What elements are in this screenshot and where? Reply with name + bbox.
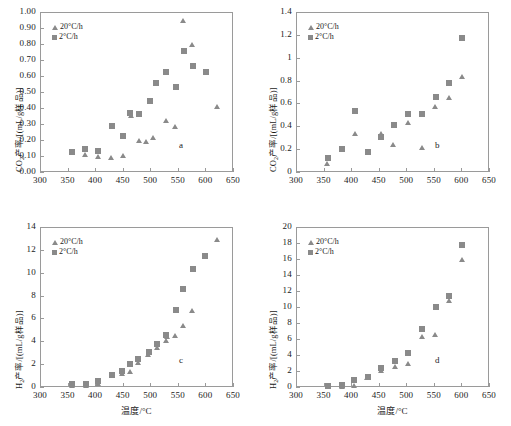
y-tick-mark <box>296 243 300 244</box>
x-tick-label: 400 <box>337 175 365 185</box>
data-point-square <box>433 304 439 310</box>
y-tick-mark <box>40 92 44 93</box>
x-tick-mark <box>434 383 435 387</box>
x-tick-label: 450 <box>365 175 393 185</box>
x-tick-label: 550 <box>164 390 192 400</box>
y-tick-label: 1 <box>258 52 292 62</box>
y-tick-label: 0.80 <box>2 38 36 48</box>
x-tick-mark <box>379 383 380 387</box>
data-point-triangle <box>378 368 384 373</box>
y-tick-label: 0.8 <box>258 75 292 85</box>
x-tick-label: 600 <box>191 175 219 185</box>
data-point-triangle <box>432 332 438 337</box>
triangle-marker-icon <box>52 25 58 30</box>
y-tick-mark <box>296 275 300 276</box>
x-tick-label: 450 <box>109 390 137 400</box>
y-tick-mark <box>296 387 300 388</box>
y-tick-mark <box>40 44 44 45</box>
data-point-square <box>120 133 126 139</box>
legend-item: 2°C/h <box>52 247 83 257</box>
x-tick-label: 600 <box>447 175 475 185</box>
panel-letter-c: c <box>179 355 183 365</box>
triangle-marker-icon <box>52 240 58 245</box>
y-tick-label: 18 <box>258 237 292 247</box>
x-tick-mark <box>40 168 41 172</box>
data-point-triangle <box>392 364 398 369</box>
data-point-triangle <box>95 381 101 386</box>
data-point-triangle <box>163 118 169 123</box>
y-tick-mark <box>40 140 44 141</box>
data-point-triangle <box>405 361 411 366</box>
x-tick-mark <box>489 168 490 172</box>
data-point-triangle <box>189 308 195 313</box>
y-tick-mark <box>40 28 44 29</box>
data-point-triangle <box>172 124 178 129</box>
square-marker-icon <box>308 35 313 40</box>
legend-item: 20°C/h <box>308 22 339 32</box>
data-point-triangle <box>405 120 411 125</box>
x-tick-label: 600 <box>191 390 219 400</box>
data-point-triangle <box>83 383 89 388</box>
data-point-triangle <box>128 113 134 118</box>
x-tick-mark <box>150 383 151 387</box>
legend-item: 2°C/h <box>308 32 339 42</box>
data-point-triangle <box>69 383 75 388</box>
x-tick-mark <box>461 168 462 172</box>
x-tick-mark <box>296 383 297 387</box>
data-point-square <box>69 149 75 155</box>
figure-grid: 0.000.100.200.300.400.500.600.700.800.90… <box>0 0 511 426</box>
legend-item: 20°C/h <box>52 22 83 32</box>
data-point-square <box>405 350 411 356</box>
data-point-square <box>391 122 397 128</box>
x-tick-label: 350 <box>54 390 82 400</box>
legend-label: 2°C/h <box>315 247 334 257</box>
data-point-triangle <box>145 352 151 357</box>
y-tick-mark <box>40 227 44 228</box>
data-point-triangle <box>214 104 220 109</box>
x-tick-mark <box>233 383 234 387</box>
data-point-square <box>173 307 179 313</box>
plot-area-b: 00.20.40.60.811.21.430035040045050055060… <box>256 0 511 213</box>
legend: 20°C/h2°C/h <box>308 22 339 42</box>
x-tick-label: 300 <box>26 390 54 400</box>
y-tick-mark <box>40 318 44 319</box>
panel-letter-d: d <box>435 355 440 365</box>
data-point-triangle <box>324 161 330 166</box>
data-point-triangle <box>325 384 331 389</box>
x-tick-mark <box>95 168 96 172</box>
data-point-square <box>202 253 208 259</box>
data-point-square <box>352 108 358 114</box>
x-tick-mark <box>379 168 380 172</box>
data-point-triangle <box>143 139 149 144</box>
x-tick-label: 400 <box>81 175 109 185</box>
plot-area-a: 0.000.100.200.300.400.500.600.700.800.90… <box>0 0 255 213</box>
x-tick-mark <box>434 168 435 172</box>
y-tick-mark <box>40 341 44 342</box>
x-tick-label: 550 <box>420 390 448 400</box>
data-point-triangle <box>365 150 371 155</box>
x-tick-label: 550 <box>420 175 448 185</box>
y-tick-label: 1.2 <box>258 29 292 39</box>
data-point-triangle <box>364 375 370 380</box>
y-tick-label: 10 <box>2 267 36 277</box>
y-tick-label: 8 <box>2 290 36 300</box>
y-tick-mark <box>296 323 300 324</box>
y-tick-mark <box>296 35 300 36</box>
x-tick-mark <box>150 168 151 172</box>
x-tick-mark <box>40 383 41 387</box>
data-point-square <box>446 80 452 86</box>
legend: 20°C/h2°C/h <box>52 237 83 257</box>
data-point-square <box>147 98 153 104</box>
y-tick-mark <box>296 12 300 13</box>
triangle-marker-icon <box>308 25 314 30</box>
square-marker-icon <box>52 250 57 255</box>
data-point-triangle <box>180 18 186 23</box>
plot-area-d: 0246810121416182030035040045050055060065… <box>256 213 511 426</box>
data-point-triangle <box>446 298 452 303</box>
chart-panel-b: 00.20.40.60.811.21.430035040045050055060… <box>256 0 511 213</box>
y-tick-mark <box>296 259 300 260</box>
data-point-triangle <box>189 42 195 47</box>
data-point-square <box>95 148 101 154</box>
data-point-square <box>459 242 465 248</box>
x-tick-mark <box>461 383 462 387</box>
